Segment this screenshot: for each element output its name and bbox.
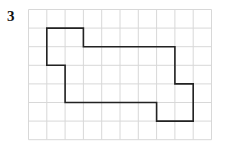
grid-lines — [29, 10, 212, 140]
grid-figure — [0, 0, 227, 149]
